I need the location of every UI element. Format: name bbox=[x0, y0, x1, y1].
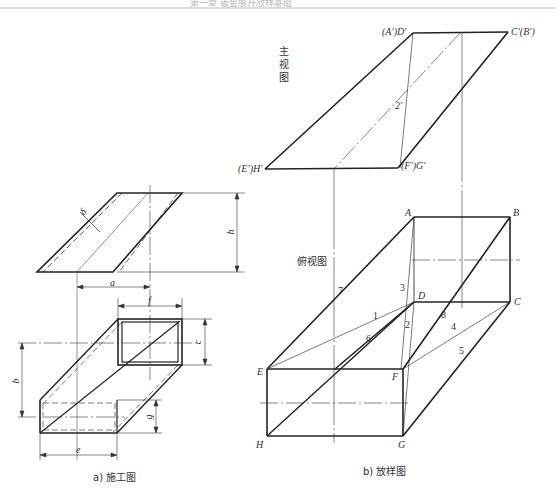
line-number-8: 8 bbox=[441, 310, 446, 320]
point-label-ad-prime: (A′)D′ bbox=[382, 27, 406, 37]
point-label-D: D bbox=[418, 291, 425, 301]
front-view-label: 主 视 图 bbox=[278, 45, 290, 84]
line-number-2: 2 bbox=[405, 320, 410, 330]
point-label-C: C bbox=[514, 297, 521, 307]
figure-a-lower-view bbox=[40, 319, 182, 433]
dim-label-a: a bbox=[110, 278, 115, 288]
line-number-7: 7 bbox=[338, 286, 343, 296]
figure-b-front-view bbox=[265, 32, 508, 169]
dim-label-b: b bbox=[11, 379, 21, 384]
line-number-3: 3 bbox=[400, 283, 405, 293]
point-label-A: A bbox=[405, 208, 411, 218]
point-label-fg-prime: (F′)G′ bbox=[401, 161, 425, 171]
dim-label-e: e bbox=[76, 445, 80, 455]
figure-a-caption: a) 施工图 bbox=[93, 473, 136, 483]
point-label-cb-prime: C′(B′) bbox=[511, 27, 535, 37]
line-number-4: 4 bbox=[451, 322, 456, 332]
point-label-H: H bbox=[256, 440, 263, 450]
point-label-E: E bbox=[257, 367, 263, 377]
dim-label-f: f bbox=[148, 296, 151, 306]
line-number-6: 6 bbox=[366, 334, 371, 344]
dim-label-c: c bbox=[193, 340, 203, 344]
line-label-2-prime: 2′ bbox=[395, 101, 402, 111]
point-label-eh-prime: (E′)H′ bbox=[238, 164, 262, 174]
point-label-B: B bbox=[513, 208, 519, 218]
dimension-b bbox=[20, 343, 24, 417]
line-number-1: 1 bbox=[373, 311, 378, 321]
figure-b-caption: b) 放样图 bbox=[363, 467, 406, 477]
point-label-F: F bbox=[392, 372, 398, 382]
figure-a-upper-view bbox=[37, 193, 182, 272]
dim-label-h: h bbox=[226, 230, 236, 235]
dim-label-g: g bbox=[144, 415, 154, 420]
line-number-5: 5 bbox=[459, 346, 464, 356]
top-view-label: 俯视图 bbox=[297, 257, 327, 267]
point-label-G: G bbox=[398, 440, 405, 450]
